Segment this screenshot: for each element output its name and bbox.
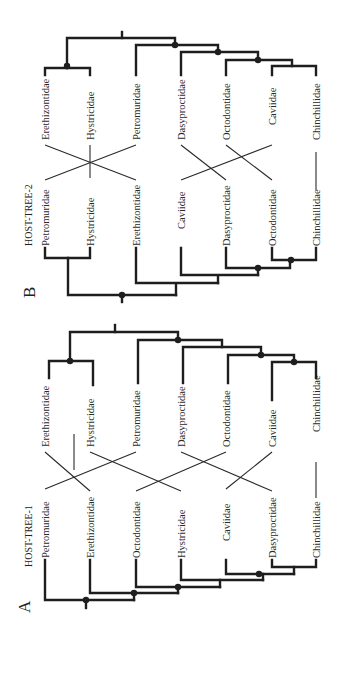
panel-b-title: HOST-TREE-2: [23, 184, 34, 246]
host-node: [256, 571, 262, 577]
parasite-taxon-label: Hystricidae: [85, 91, 96, 140]
parasite-taxon-label: Erethizontidae: [40, 78, 51, 140]
panel-b-letter: B: [20, 287, 39, 298]
host-taxon-label: Octodontidae: [131, 501, 142, 558]
host-node: [175, 584, 181, 590]
host-taxon-label: Chinchillidae: [311, 189, 322, 246]
parasite-node: [255, 57, 261, 63]
parasite-node: [291, 359, 297, 365]
host-taxon-label: Petromuridae: [40, 189, 51, 246]
panel-a-letter: A: [15, 600, 34, 613]
host-taxon-label: Octodontidae: [267, 189, 278, 246]
host-taxon-label: Hystricidae: [85, 197, 96, 246]
parasite-taxon-label: Octodontidae: [221, 390, 232, 447]
parasite-node: [64, 63, 70, 69]
parasite-taxon-label: Petromuridae: [131, 390, 142, 447]
host-taxon-label: Dasyproctidae: [221, 185, 232, 246]
parasite-taxon-label: Octodontidae: [221, 83, 232, 140]
cophylogeny-figure: B HOST-TREE-2 Petromuridae Hystricidae E…: [0, 0, 342, 682]
host-taxon-label: Chinchillidae: [311, 501, 322, 558]
host-node: [83, 597, 89, 603]
host-node: [131, 590, 137, 596]
panel-a: A HOST-TREE-1 Petromuridae Erethizontida…: [15, 325, 322, 613]
parasite-taxon-label: Chinchillidae: [311, 375, 322, 432]
parasite-taxon-label: Petromuridae: [131, 83, 142, 140]
host-taxon-label: Petromuridae: [40, 501, 51, 558]
host-tree-b: [45, 248, 316, 302]
parasite-node: [172, 42, 178, 48]
parasite-node: [215, 49, 221, 55]
association-lines-b: [45, 145, 316, 190]
host-taxon-label: Hystricidae: [176, 509, 187, 558]
parasite-taxon-label: Caviidae: [267, 87, 278, 125]
host-node: [119, 292, 125, 298]
parasite-taxon-label: Chinchillidae: [311, 83, 322, 140]
host-taxon-label: Erethizontidae: [131, 184, 142, 246]
host-taxon-label: Caviidae: [221, 503, 232, 541]
parasite-node: [67, 358, 73, 364]
host-taxon-label: Dasyproctidae: [267, 497, 278, 558]
parasite-taxon-label: Hystricidae: [85, 398, 96, 447]
host-tree-a: [45, 560, 316, 608]
host-node: [288, 257, 294, 263]
parasite-taxon-label: Caviidae: [267, 409, 278, 447]
parasite-taxon-label: Dasyproctidae: [176, 79, 187, 140]
parasite-taxon-label: Erethizontidae: [40, 385, 51, 447]
panel-b: B HOST-TREE-2 Petromuridae Hystricidae E…: [20, 32, 322, 302]
host-taxon-label: Erethizontidae: [85, 496, 96, 558]
parasite-taxon-label: Dasyproctidae: [176, 386, 187, 447]
host-node: [255, 265, 261, 271]
parasite-tree-b: [45, 32, 316, 75]
parasite-node: [258, 352, 264, 358]
parasite-node: [175, 337, 181, 343]
panel-a-title: HOST-TREE-1: [23, 505, 34, 567]
host-taxon-label: Caviidae: [176, 191, 187, 229]
